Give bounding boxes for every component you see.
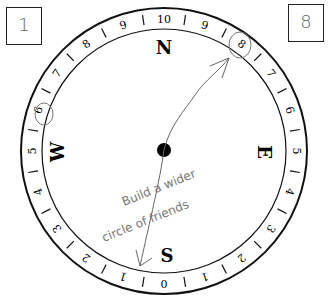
ring-number-right-1: 9 (199, 18, 210, 33)
cardinal-south: S (161, 245, 174, 266)
ring-number-right-5: 5 (290, 148, 303, 155)
ring-tick (254, 54, 261, 61)
ring-tick (290, 129, 300, 131)
ring-number-left-4: 4 (31, 186, 46, 197)
ring-number-right-8: 2 (235, 250, 248, 265)
ring-number-left-9: 9 (118, 18, 129, 33)
ring-number-left-2: 2 (80, 250, 93, 265)
ring-tick (102, 28, 107, 37)
cardinal-west: W (47, 141, 68, 163)
ring-number-left-1: 1 (118, 269, 129, 284)
ring-tick (67, 241, 74, 248)
annotation-line-2: circle of friends (100, 197, 191, 245)
ring-tick (222, 265, 227, 274)
ring-tick (184, 15, 186, 25)
ring-number-right-0: 10 (157, 13, 171, 26)
ring-number-right-9: 1 (199, 269, 210, 284)
ring-number-left-3: 3 (50, 222, 65, 235)
ring-tick (278, 209, 287, 214)
ring-tick (142, 277, 144, 287)
arrow-line-up (164, 58, 229, 150)
ring-number-right-3: 7 (263, 67, 278, 80)
compass-dial: 109876543210123456789 N S W E Build a wi… (0, 0, 328, 299)
ring-number-left-8: 8 (80, 37, 93, 52)
ring-number-left-6: 6 (31, 105, 46, 116)
ring-number-right-4: 6 (282, 105, 297, 116)
cardinal-north: N (156, 37, 172, 58)
ring-tick (278, 89, 287, 94)
cardinal-east: E (254, 145, 275, 159)
ring-number-left-7: 7 (50, 67, 65, 80)
ring-tick (222, 28, 227, 37)
ring-number-right-7: 3 (263, 222, 278, 235)
ring-tick (41, 89, 50, 94)
ring-number-right-10: 0 (161, 277, 168, 290)
ring-tick (67, 54, 74, 61)
ring-tick (102, 265, 107, 274)
ring-number-right-2: 8 (235, 37, 248, 52)
arrowhead-down-icon (136, 250, 152, 266)
ring-tick (41, 209, 50, 214)
ring-number-right-6: 4 (282, 186, 297, 197)
ring-tick (28, 129, 38, 131)
ring-tick (142, 15, 144, 25)
ring-tick (184, 277, 186, 287)
ring-number-left-5: 5 (26, 148, 39, 155)
ring-tick (290, 171, 300, 173)
ring-tick (28, 171, 38, 173)
ring-tick (254, 241, 261, 248)
